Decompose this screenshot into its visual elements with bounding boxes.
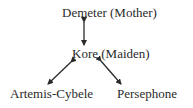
edge-kore-artemis-arrow — [48, 62, 71, 84]
diagram-edges — [0, 0, 193, 108]
edge-kore-persephone-arrow — [101, 61, 121, 84]
